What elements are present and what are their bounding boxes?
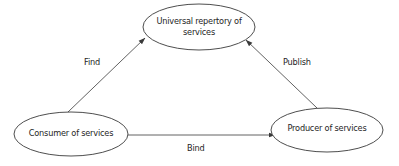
find-edge-label: Find xyxy=(84,57,100,68)
find-arrow xyxy=(68,38,145,112)
consumer-node-label: Consumer of services xyxy=(14,128,128,139)
publish-arrow xyxy=(246,40,317,108)
bind-edge-label: Bind xyxy=(187,143,204,154)
registry-label-line1: Universal repertory of xyxy=(143,16,255,27)
publish-edge-label: Publish xyxy=(283,57,311,68)
producer-node-label: Producer of services xyxy=(271,123,383,134)
registry-node-label: Universal repertory of services xyxy=(143,16,255,38)
registry-label-line2: services xyxy=(143,27,255,38)
